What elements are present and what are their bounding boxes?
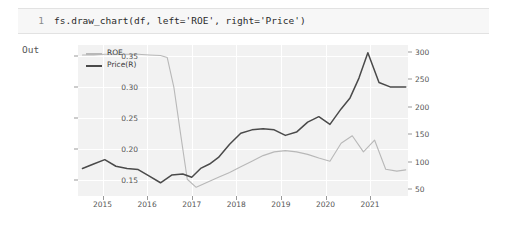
y-axis-left-tick-mark <box>74 56 78 57</box>
y-axis-right-tick-mark <box>408 161 412 162</box>
legend-label-roe: ROE <box>107 48 123 57</box>
x-axis-tick-label: 2016 <box>127 200 167 209</box>
x-axis-tick-mark <box>326 196 327 200</box>
x-axis-tick-label: 2017 <box>172 200 212 209</box>
x-axis-tick-label: 2018 <box>216 200 256 209</box>
y-axis-left-tick-mark <box>74 118 78 119</box>
x-axis-tick-mark <box>192 196 193 200</box>
code-cell[interactable]: 1 fs.draw_chart(df, left='ROE', right='P… <box>18 8 489 34</box>
cell-prompt-number: 1 <box>26 15 44 26</box>
y-axis-left-tick-mark <box>74 149 78 150</box>
legend-label-price: Price(R) <box>107 60 136 69</box>
output-label: Out <box>22 44 39 55</box>
x-axis-tick-label: 2015 <box>83 200 123 209</box>
y-axis-right-tick-label: 250 <box>415 75 455 84</box>
y-axis-left-tick-mark <box>74 180 78 181</box>
y-axis-right-tick-mark <box>408 79 412 80</box>
x-axis-tick-label: 2020 <box>306 200 346 209</box>
x-axis-tick-mark <box>147 196 148 200</box>
chart-figure: 0.350.300.250.200.1530025020015010050201… <box>60 40 490 220</box>
x-axis-tick-mark <box>281 196 282 200</box>
y-axis-right-tick-label: 150 <box>415 130 455 139</box>
x-axis-tick-mark <box>236 196 237 200</box>
x-axis-tick-label: 2021 <box>350 200 390 209</box>
legend-swatch-roe <box>86 53 102 55</box>
y-axis-left-tick-label: 0.25 <box>98 114 138 123</box>
y-axis-right-tick-label: 300 <box>415 47 455 56</box>
notebook-output-cell: 1 fs.draw_chart(df, left='ROE', right='P… <box>0 0 507 234</box>
y-axis-right-tick-mark <box>408 189 412 190</box>
chart-legend: ROE Price(R) <box>86 48 156 74</box>
y-axis-right-tick-mark <box>408 134 412 135</box>
y-axis-right-tick-label: 100 <box>415 157 455 166</box>
y-axis-left-tick-label: 0.20 <box>98 145 138 154</box>
x-axis-tick-label: 2019 <box>261 200 301 209</box>
legend-swatch-price <box>86 65 102 67</box>
legend-item-price: Price(R) <box>86 60 156 72</box>
x-axis-tick-mark <box>370 196 371 200</box>
code-source[interactable]: fs.draw_chart(df, left='ROE', right='Pri… <box>54 15 306 26</box>
y-axis-right-tick-label: 200 <box>415 102 455 111</box>
legend-item-roe: ROE <box>86 48 156 60</box>
y-axis-right-tick-label: 50 <box>415 185 455 194</box>
x-axis-tick-mark <box>103 196 104 200</box>
y-axis-left-tick-mark <box>74 87 78 88</box>
y-axis-right-tick-mark <box>408 106 412 107</box>
y-axis-left-tick-label: 0.15 <box>98 176 138 185</box>
y-axis-right-tick-mark <box>408 51 412 52</box>
y-axis-left-tick-label: 0.30 <box>98 83 138 92</box>
